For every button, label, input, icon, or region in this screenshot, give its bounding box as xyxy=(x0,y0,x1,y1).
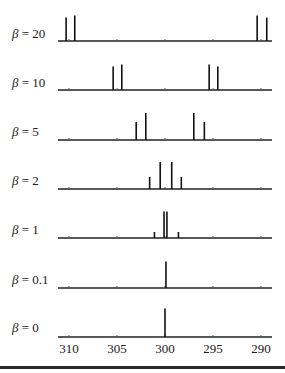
beta-value: 20 xyxy=(32,26,45,41)
beta-symbol: β xyxy=(12,26,18,41)
beta-value: 0.1 xyxy=(32,272,48,287)
beta-symbol: β xyxy=(12,173,18,188)
beta-symbol: β xyxy=(12,272,18,287)
spectrum-panel xyxy=(58,16,272,42)
panel-label-beta-1: β = 1 xyxy=(12,222,39,238)
x-tick-label: 305 xyxy=(107,341,127,356)
beta-symbol: β xyxy=(12,222,18,237)
panel-label-beta-0: β = 0 xyxy=(12,320,39,336)
spectrum-panel xyxy=(58,212,272,238)
spectrum-panel xyxy=(58,162,272,189)
beta-value: 1 xyxy=(32,222,39,237)
x-tick-label: 310 xyxy=(59,341,79,356)
beta-value: 2 xyxy=(32,173,39,188)
beta-symbol: β xyxy=(12,124,18,139)
panel-label-beta-5: β = 5 xyxy=(12,124,39,140)
x-tick-label: 290 xyxy=(251,341,271,356)
beta-value: 10 xyxy=(32,75,45,90)
panel-label-beta-0-1: β = 0.1 xyxy=(12,272,49,288)
beta-value: 5 xyxy=(32,124,39,139)
beta-symbol: β xyxy=(12,320,18,335)
x-tick-label: 295 xyxy=(203,341,223,356)
panel-label-beta-2: β = 2 xyxy=(12,173,39,189)
panel-label-beta-10: β = 10 xyxy=(12,75,45,91)
beta-symbol: β xyxy=(12,75,18,90)
x-tick-label: 300 xyxy=(155,341,175,356)
panel-label-beta-20: β = 20 xyxy=(12,26,45,42)
chart-canvas: 310305300295290 xyxy=(0,0,285,373)
bottom-rule-divider xyxy=(0,366,285,369)
spectrum-panel xyxy=(58,262,272,288)
stacked-stick-spectra-chart: 310305300295290 xyxy=(0,0,285,373)
spectrum-panel xyxy=(58,113,272,140)
spectrum-panel xyxy=(58,65,272,91)
spectrum-panel xyxy=(58,309,272,338)
beta-value: 0 xyxy=(32,320,39,335)
